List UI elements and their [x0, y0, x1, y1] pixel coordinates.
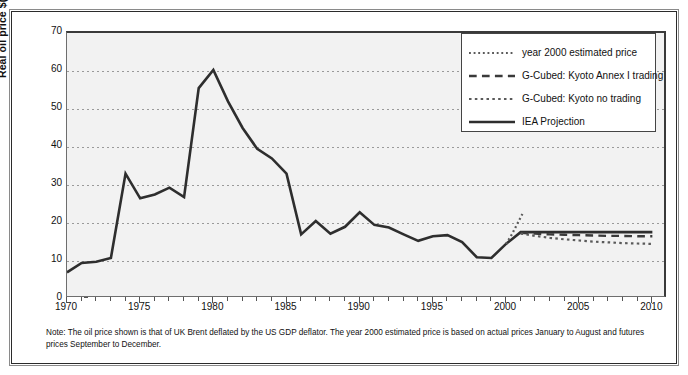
x-axis-tick-mark: [242, 297, 243, 301]
x-axis-tick-mark: [578, 297, 579, 303]
x-axis-tick-mark: [95, 297, 96, 301]
x-axis-tick-mark: [344, 297, 345, 301]
x-axis-tick-mark: [432, 297, 433, 303]
x-axis-tick-mark: [183, 297, 184, 301]
legend-item: G-Cubed: Kyoto Annex I trading: [462, 64, 655, 87]
legend-item: IEA Projection: [462, 110, 655, 133]
x-axis-tick-mark: [329, 297, 330, 301]
x-axis-tick-mark: [490, 297, 491, 301]
y-axis-tick-label: 20: [22, 216, 62, 226]
x-axis-tick-mark: [373, 297, 374, 301]
x-axis-tick-mark: [534, 297, 535, 301]
x-axis-tick-mark: [256, 297, 257, 301]
x-axis-tick-mark: [271, 297, 272, 301]
x-axis-tick-mark: [66, 297, 67, 303]
chart-note: Note: The oil price shown is that of UK …: [46, 327, 646, 350]
x-axis-tick-mark: [359, 297, 360, 303]
legend-item: G-Cubed: Kyoto no trading: [462, 87, 655, 110]
x-axis-tick-mark: [315, 297, 316, 301]
chart-legend: year 2000 estimated priceG-Cubed: Kyoto …: [461, 33, 656, 132]
x-axis-tick-mark: [81, 297, 82, 301]
legend-item-label: year 2000 estimated price: [522, 47, 637, 58]
x-axis-tick-mark: [388, 297, 389, 301]
y-axis-tick-labels: 010203040506070: [22, 0, 62, 375]
legend-line-swatch: [469, 47, 515, 59]
x-axis-tick-mark: [198, 297, 199, 301]
x-axis-tick-mark: [125, 297, 126, 301]
x-axis-tick-mark: [286, 297, 287, 303]
x-axis-tick-mark: [637, 297, 638, 301]
x-axis-tick-mark: [593, 297, 594, 301]
legend-item-label: G-Cubed: Kyoto no trading: [522, 93, 641, 104]
x-axis-tick-mark: [564, 297, 565, 301]
x-axis-tick-mark: [110, 297, 111, 301]
legend-item-label: IEA Projection: [522, 116, 585, 127]
y-axis-tick-label: 40: [22, 140, 62, 150]
x-axis-tick-mark: [520, 297, 521, 301]
y-axis-tick-label: 10: [22, 254, 62, 264]
x-axis-tick-mark: [417, 297, 418, 301]
y-axis-tick-label: 60: [22, 64, 62, 74]
x-axis-tick-mark: [403, 297, 404, 301]
x-axis-tick-labels: 197019751980198519901995200020052010: [0, 301, 688, 317]
x-axis-tick-mark: [212, 297, 213, 303]
x-axis-tick-mark: [168, 297, 169, 301]
x-axis-tick-mark: [139, 297, 140, 303]
x-axis-tick-mark: [476, 297, 477, 301]
y-axis-tick-label: 50: [22, 102, 62, 112]
x-axis-tick-mark: [505, 297, 506, 303]
x-axis-tick-mark: [549, 297, 550, 301]
y-axis-tick-label: 70: [22, 26, 62, 36]
x-axis-tick-mark: [227, 297, 228, 301]
y-axis-title: Real oil price $(1990) per barrel: [0, 0, 8, 78]
legend-item: year 2000 estimated price: [462, 41, 655, 64]
legend-line-swatch: [469, 116, 515, 128]
x-axis-tick-mark: [607, 297, 608, 301]
x-axis-tick-mark: [651, 297, 652, 303]
x-axis-tick-mark: [446, 297, 447, 301]
legend-line-swatch: [469, 70, 515, 82]
legend-line-swatch: [469, 93, 515, 105]
x-axis-tick-mark: [154, 297, 155, 301]
y-axis-tick-label: 30: [22, 178, 62, 188]
x-axis-tick-mark: [461, 297, 462, 301]
figure-container: Real oil price $(1990) per barrel 010203…: [0, 0, 688, 375]
x-axis-tick-mark: [300, 297, 301, 301]
x-axis-tick-mark: [622, 297, 623, 301]
legend-item-label: G-Cubed: Kyoto Annex I trading: [522, 70, 663, 81]
